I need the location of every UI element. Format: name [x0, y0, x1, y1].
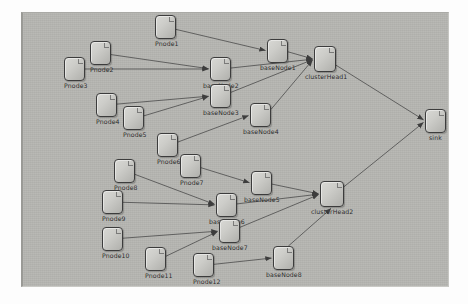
node-label-baseNode7: baseNode7: [212, 244, 248, 252]
node-label-baseNode5: baseNode5: [244, 196, 280, 204]
node-label-Pnode5: Pnode5: [123, 131, 147, 139]
node-label-Pnode6: Pnode6: [157, 158, 181, 166]
node-Pnode5[interactable]: [123, 106, 144, 130]
node-label-Pnode9: Pnode9: [102, 215, 126, 223]
node-label-Pnode4: Pnode4: [96, 118, 120, 126]
node-handle-icon: [224, 59, 229, 64]
node-handle-icon: [159, 249, 164, 254]
node-Pnode11[interactable]: [145, 247, 166, 271]
edge-Pnode7-to-baseNode5[interactable]: [201, 168, 250, 183]
node-label-Pnode3: Pnode3: [64, 82, 88, 90]
node-Pnode2[interactable]: [90, 41, 111, 65]
node-Pnode10[interactable]: [102, 227, 123, 251]
edges: [85, 29, 424, 264]
node-Pnode4[interactable]: [96, 93, 117, 117]
node-label-baseNode8: baseNode8: [266, 271, 302, 279]
node-handle-icon: [265, 173, 270, 178]
node-label-Pnode7: Pnode7: [180, 179, 204, 187]
edge-Pnode6-to-baseNode4[interactable]: [178, 116, 249, 142]
node-baseNode7[interactable]: [219, 219, 240, 243]
node-Pnode6[interactable]: [157, 133, 178, 157]
node-handle-icon: [110, 95, 115, 100]
node-label-clusterHead1: clusterHead1: [305, 73, 347, 81]
node-handle-icon: [281, 41, 286, 46]
edge-Pnode9-to-baseNode6[interactable]: [123, 202, 215, 205]
node-handle-icon: [337, 183, 342, 188]
node-label-Pnode11: Pnode11: [145, 272, 173, 280]
node-label-Pnode12: Pnode12: [193, 278, 221, 286]
node-label-baseNode3: baseNode3: [203, 109, 239, 117]
node-label-Pnode2: Pnode2: [90, 66, 114, 74]
node-label-baseNode4: baseNode4: [243, 128, 279, 136]
node-handle-icon: [78, 59, 83, 64]
node-Pnode1[interactable]: [155, 15, 176, 39]
node-Pnode9[interactable]: [102, 190, 123, 214]
node-baseNode1[interactable]: [267, 39, 288, 63]
node-handle-icon: [194, 156, 199, 161]
edge-Pnode12-to-baseNode8[interactable]: [214, 258, 272, 264]
node-handle-icon: [329, 48, 334, 53]
node-label-sink: sink: [429, 134, 442, 142]
node-baseNode2[interactable]: [210, 57, 231, 81]
node-handle-icon: [224, 86, 229, 91]
node-baseNode3[interactable]: [210, 84, 231, 108]
node-label-clusterHead2: clusterHead2: [311, 208, 353, 216]
node-handle-icon: [439, 111, 444, 116]
node-baseNode5[interactable]: [251, 171, 272, 195]
node-handle-icon: [264, 105, 269, 110]
node-label-Pnode10: Pnode10: [102, 252, 130, 260]
node-handle-icon: [128, 161, 133, 166]
node-label-Pnode1: Pnode1: [155, 40, 179, 48]
edge-Pnode1-to-baseNode1[interactable]: [176, 29, 266, 50]
edge-clusterHead1-to-sink[interactable]: [336, 65, 424, 120]
node-Pnode3[interactable]: [64, 57, 85, 81]
node-clusterHead2[interactable]: [320, 181, 344, 207]
node-baseNode4[interactable]: [250, 103, 271, 127]
node-handle-icon: [137, 108, 142, 113]
node-handle-icon: [116, 192, 121, 197]
edge-Pnode10-to-baseNode7[interactable]: [123, 231, 218, 238]
node-handle-icon: [171, 135, 176, 140]
diagram-screenshot: Pnode1Pnode2Pnode3Pnode4Pnode5Pnode6Pnod…: [0, 0, 468, 304]
node-clusterHead1[interactable]: [314, 46, 336, 72]
node-sink[interactable]: [425, 109, 446, 133]
node-handle-icon: [207, 255, 212, 260]
node-baseNode6[interactable]: [216, 193, 237, 217]
node-Pnode12[interactable]: [193, 253, 214, 277]
diagram-canvas[interactable]: Pnode1Pnode2Pnode3Pnode4Pnode5Pnode6Pnod…: [21, 12, 449, 287]
node-handle-icon: [169, 17, 174, 22]
edge-clusterHead2-to-sink[interactable]: [344, 123, 424, 187]
node-handle-icon: [287, 248, 292, 253]
edge-Pnode2-to-baseNode2[interactable]: [111, 55, 209, 69]
node-handle-icon: [116, 229, 121, 234]
node-Pnode7[interactable]: [180, 154, 201, 178]
node-handle-icon: [233, 221, 238, 226]
node-handle-icon: [230, 195, 235, 200]
edge-baseNode5-to-clusterHead2[interactable]: [272, 184, 319, 194]
node-Pnode8[interactable]: [114, 159, 135, 183]
node-baseNode8[interactable]: [273, 246, 294, 270]
node-label-baseNode1: baseNode1: [260, 64, 296, 72]
node-handle-icon: [104, 43, 109, 48]
edge-baseNode1-to-clusterHead1[interactable]: [288, 52, 313, 59]
